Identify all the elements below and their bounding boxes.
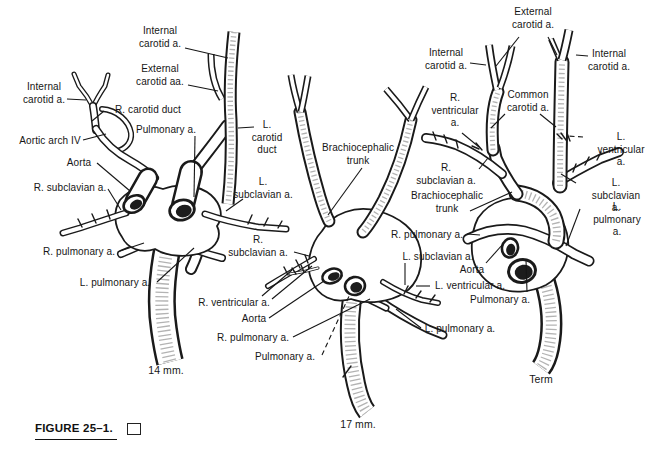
anatomy-label: R. subclavian a. — [34, 182, 107, 195]
labels-layer: Internal carotid a.External carotid aa.I… — [0, 0, 670, 450]
anatomy-label: R. pulmonary a. — [217, 332, 289, 345]
anatomy-label: Aortic arch IV — [19, 135, 80, 148]
anatomy-label: Pulmonary a. — [470, 294, 530, 307]
anatomy-label: R. subclavian a. — [228, 234, 288, 259]
anatomy-label: L. subclavian a. — [233, 176, 293, 201]
figure-caption: FIGURE 25–1. — [35, 422, 141, 440]
anatomy-label: L. subclavian a. — [402, 251, 473, 264]
anatomy-label: R. pulmonary a. — [43, 246, 115, 259]
anatomy-label: Pulmonary a. — [136, 124, 196, 137]
anatomy-label: Aorta — [67, 157, 91, 170]
anatomy-label: L. pulmonary a. — [591, 201, 644, 239]
anatomy-label: R. subclavian a. — [416, 162, 476, 187]
anatomy-label: Brachiocephalic trunk — [411, 190, 483, 215]
anatomy-label: L. ventricular a. — [597, 131, 646, 169]
anatomy-label: L. ventricular a. — [435, 280, 505, 293]
anatomy-label: L. pulmonary a. — [80, 277, 150, 290]
anatomy-label: R. carotid duct — [115, 104, 181, 117]
stage-caption: 17 mm. — [340, 418, 376, 431]
anatomy-label: Internal carotid a. — [588, 48, 630, 73]
stage-caption: 14 mm. — [148, 364, 184, 377]
figure-canvas: Internal carotid a.External carotid aa.I… — [0, 0, 670, 450]
figure-caption-box — [127, 423, 141, 435]
figure-caption-text: FIGURE 25–1. — [35, 422, 117, 440]
anatomy-label: External carotid aa. — [136, 63, 184, 88]
anatomy-label: R. ventricular a. — [431, 92, 478, 130]
anatomy-label: L. carotid duct — [252, 119, 283, 157]
anatomy-label: L. pulmonary a. — [425, 323, 495, 336]
anatomy-label: Pulmonary a. — [255, 351, 315, 364]
anatomy-label: Brachiocephalic trunk — [322, 142, 394, 167]
anatomy-label: Aorta — [460, 264, 484, 277]
stage-caption: Term — [529, 373, 553, 386]
anatomy-label: R. ventricular a. — [198, 297, 270, 310]
anatomy-label: Internal carotid a. — [139, 25, 181, 50]
anatomy-label: Internal carotid a. — [23, 81, 65, 106]
anatomy-label: External carotid a. — [512, 6, 554, 31]
anatomy-label: Internal carotid a. — [425, 47, 467, 72]
anatomy-label: Aorta — [242, 313, 266, 326]
anatomy-label: R. pulmonary a. — [391, 229, 463, 242]
anatomy-label: Common carotid a. — [507, 89, 549, 114]
